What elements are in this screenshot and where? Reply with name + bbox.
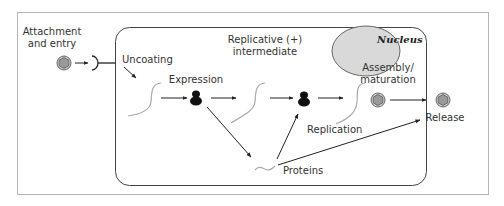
replicative-label-line2: intermediate (233, 46, 297, 57)
release-label: Release (425, 112, 464, 123)
replicative-label-line1: Replicative (+) (228, 34, 302, 45)
virion-icon-entry (57, 56, 71, 70)
uncoating-label: Uncoating (122, 54, 173, 65)
virion-icon-released (436, 93, 450, 107)
virus-lifecycle-diagram: Nucleus Attachment and entry Uncoating E… (0, 0, 504, 206)
attachment-label-line2: and entry (28, 38, 77, 49)
assembly-label-line1: Assembly/ (362, 62, 414, 73)
virion-icon-assembled (371, 93, 385, 107)
proteins-label: Proteins (283, 165, 323, 176)
attachment-label-line1: Attachment (23, 26, 82, 37)
nucleus-label: Nucleus (376, 34, 423, 45)
replication-label: Replication (307, 124, 362, 135)
assembly-label-line2: maturation (360, 74, 416, 85)
expression-label: Expression (169, 74, 223, 85)
